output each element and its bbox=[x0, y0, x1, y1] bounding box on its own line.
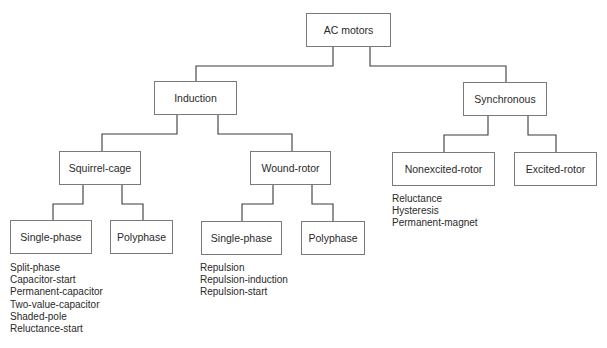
list-item: Capacitor-start bbox=[10, 274, 103, 286]
connector-induction-squirrel-cage bbox=[102, 114, 177, 151]
node-label: Induction bbox=[174, 92, 217, 104]
node-wound-single-phase: Single-phase bbox=[201, 221, 282, 255]
node-label: Polyphase bbox=[308, 232, 357, 244]
node-label: Wound-rotor bbox=[261, 162, 319, 174]
list-item: Reluctance-start bbox=[10, 323, 103, 335]
node-ac-motors: AC motors bbox=[306, 13, 391, 47]
list-item: Permanent-magnet bbox=[392, 217, 478, 229]
node-wound-rotor: Wound-rotor bbox=[250, 151, 331, 185]
node-label: Single-phase bbox=[20, 231, 81, 243]
node-label: Single-phase bbox=[211, 232, 272, 244]
list-item: Hysteresis bbox=[392, 205, 478, 217]
list-item: Shaded-pole bbox=[10, 311, 103, 323]
list-item: Split-phase bbox=[10, 262, 103, 274]
node-label: AC motors bbox=[324, 24, 374, 36]
connector-wound-polyphase bbox=[312, 185, 333, 221]
list-nonexcited-rotor-types: Reluctance Hysteresis Permanent-magnet bbox=[392, 193, 478, 230]
connector-synchronous-excited bbox=[528, 116, 556, 152]
node-synchronous: Synchronous bbox=[463, 82, 547, 116]
node-nonexcited-rotor: Nonexcited-rotor bbox=[392, 152, 495, 186]
connector-wound-single-phase bbox=[242, 185, 273, 221]
connector-root-synchronous bbox=[370, 46, 506, 82]
connector-synchronous-nonexcited bbox=[444, 116, 488, 152]
node-squirrel-polyphase: Polyphase bbox=[110, 220, 173, 254]
list-item: Repulsion bbox=[200, 262, 288, 274]
node-squirrel-cage: Squirrel-cage bbox=[59, 151, 141, 185]
list-squirrel-single-phase-types: Split-phase Capacitor-start Permanent-ca… bbox=[10, 262, 103, 335]
connector-root-induction bbox=[196, 46, 333, 81]
list-item: Two-value-capacitor bbox=[10, 299, 103, 311]
node-label: Synchronous bbox=[474, 93, 535, 105]
node-wound-polyphase: Polyphase bbox=[301, 221, 365, 255]
list-item: Repulsion-induction bbox=[200, 274, 288, 286]
list-wound-single-phase-types: Repulsion Repulsion-induction Repulsion-… bbox=[200, 262, 288, 299]
list-item: Reluctance bbox=[392, 193, 478, 205]
node-label: Squirrel-cage bbox=[69, 162, 131, 174]
list-item: Permanent-capacitor bbox=[10, 286, 103, 298]
node-squirrel-single-phase: Single-phase bbox=[10, 220, 92, 254]
node-excited-rotor: Excited-rotor bbox=[514, 152, 597, 186]
node-label: Polyphase bbox=[117, 231, 166, 243]
node-induction: Induction bbox=[154, 81, 237, 115]
connector-squirrel-polyphase bbox=[122, 184, 143, 220]
node-label: Nonexcited-rotor bbox=[405, 163, 483, 175]
node-label: Excited-rotor bbox=[526, 163, 586, 175]
connector-induction-wound-rotor bbox=[218, 114, 292, 151]
connector-squirrel-single-phase bbox=[53, 184, 83, 220]
ac-motors-tree-diagram: AC motors Induction Synchronous Squirrel… bbox=[0, 0, 607, 348]
list-item: Repulsion-start bbox=[200, 286, 288, 298]
